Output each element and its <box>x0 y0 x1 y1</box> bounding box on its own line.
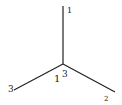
label-lower-right-end: 2 <box>104 95 108 103</box>
label-center-3: 3 <box>62 69 68 79</box>
label-center-1: 1 <box>54 73 60 84</box>
diagram-canvas: 1 3 2 1 3 <box>0 0 122 105</box>
label-lower-left-end: 3 <box>8 84 14 94</box>
label-top-end: 1 <box>67 6 72 15</box>
arm-lower-right <box>63 64 115 92</box>
